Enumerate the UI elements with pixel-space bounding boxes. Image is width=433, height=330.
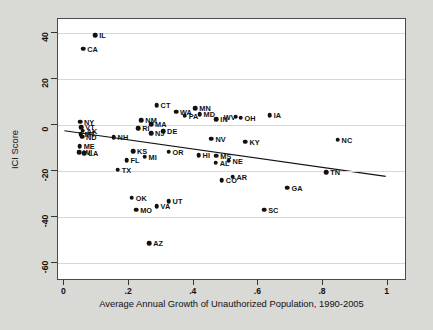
gridline — [58, 217, 405, 218]
data-point — [142, 155, 147, 160]
y-axis-tick-label: 20 — [40, 78, 50, 88]
data-point-label: NV — [215, 134, 225, 143]
gridline — [58, 263, 405, 264]
data-point-label: KY — [249, 137, 259, 146]
x-axis-tick — [387, 280, 388, 285]
data-point-label: TN — [330, 168, 340, 177]
data-point-label: PA — [189, 111, 199, 120]
gridline — [58, 79, 405, 80]
y-axis-tick-label: 0 — [40, 126, 50, 131]
data-point-label: AR — [237, 172, 248, 181]
data-point — [77, 144, 82, 149]
data-point — [131, 149, 136, 154]
data-point — [214, 117, 219, 122]
x-axis-tick-label: .8 — [318, 286, 325, 296]
data-point-label: VA — [161, 202, 171, 211]
data-point-label: FL — [131, 156, 140, 165]
data-point — [129, 196, 134, 201]
y-axis-tick-label: -20 — [40, 168, 50, 180]
data-point-label: IL — [99, 31, 106, 40]
data-point — [93, 33, 98, 38]
gridline — [58, 33, 405, 34]
data-point — [77, 150, 82, 155]
data-point — [243, 139, 248, 144]
data-point-label: CA — [87, 44, 98, 53]
x-axis-tick-label: 0 — [61, 286, 66, 296]
data-point — [154, 103, 159, 108]
data-point-label: AL — [220, 158, 230, 167]
data-point-label: LA — [88, 149, 98, 158]
y-axis-tick-label: -40 — [40, 214, 50, 226]
regression-line — [58, 19, 405, 279]
data-point — [147, 241, 152, 246]
plot-area: ILCACTMNWAMDPAIAOHWVINNMMANYRIVTAKNJDENV… — [57, 18, 406, 280]
data-point — [80, 134, 85, 139]
data-point — [213, 161, 218, 166]
data-point — [124, 158, 129, 163]
data-point — [209, 136, 214, 141]
data-point-label: SC — [268, 205, 278, 214]
data-point — [182, 113, 187, 118]
x-axis-tick — [257, 280, 258, 285]
data-point-label: HI — [203, 151, 211, 160]
data-point — [111, 135, 116, 140]
data-point — [115, 167, 120, 172]
data-point-label: MO — [140, 205, 152, 214]
y-axis-title: ICI Score — [8, 18, 22, 280]
data-point-label: MA — [155, 120, 167, 129]
data-point-label: ND — [86, 132, 97, 141]
data-point — [81, 47, 86, 52]
data-point — [335, 138, 340, 143]
data-point-label: NC — [342, 135, 353, 144]
data-point-label: GA — [291, 183, 302, 192]
x-axis-tick-label: .2 — [124, 286, 131, 296]
data-point — [285, 185, 290, 190]
scatter-plot-figure: ICI Score 40200-20-40-60 ILCACTMNWAMDPAI… — [0, 0, 433, 330]
y-axis-title-text: ICI Score — [10, 129, 21, 168]
data-point-label: MI — [149, 152, 157, 161]
data-point — [139, 118, 144, 123]
data-point — [134, 207, 139, 212]
data-point — [82, 151, 87, 156]
x-axis-tick — [322, 280, 323, 285]
x-axis-tick-label: 1 — [384, 286, 389, 296]
data-point-label: AZ — [153, 239, 163, 248]
data-point — [166, 150, 171, 155]
data-point-label: UT — [173, 197, 183, 206]
data-point — [161, 129, 166, 134]
data-point-label: CO — [226, 176, 237, 185]
data-point-label: TX — [122, 165, 132, 174]
data-point-label: OR — [173, 147, 184, 156]
data-point — [193, 106, 198, 111]
data-point — [136, 126, 141, 131]
data-point-label: OK — [136, 193, 147, 202]
x-axis-title: Average Annual Growth of Unauthorized Po… — [57, 298, 406, 309]
y-axis: 40200-20-40-60 — [46, 18, 57, 280]
data-point-label: OH — [245, 113, 256, 122]
data-point — [238, 116, 243, 121]
data-point — [220, 178, 225, 183]
y-axis-tick-label: 40 — [40, 32, 50, 42]
gridline — [58, 171, 405, 172]
data-point — [78, 119, 83, 124]
x-axis-tick-label: .4 — [189, 286, 196, 296]
x-axis-tick — [193, 280, 194, 285]
x-axis: 0.2.4.6.81 — [57, 280, 406, 292]
data-point — [154, 204, 159, 209]
y-axis-tick-label: -60 — [40, 260, 50, 272]
data-point-label: IA — [274, 111, 282, 120]
data-point-label: IN — [220, 115, 228, 124]
data-point — [196, 153, 201, 158]
data-point — [174, 110, 179, 115]
gridline — [58, 125, 405, 126]
x-axis-tick — [63, 280, 64, 285]
data-point — [324, 170, 329, 175]
x-axis-tick-label: .6 — [254, 286, 261, 296]
data-point-label: DE — [167, 127, 177, 136]
x-axis-tick — [128, 280, 129, 285]
data-point-label: CT — [161, 101, 171, 110]
data-point — [214, 153, 219, 158]
data-point — [262, 207, 267, 212]
data-point-label: NE — [233, 156, 243, 165]
data-point — [149, 131, 154, 136]
